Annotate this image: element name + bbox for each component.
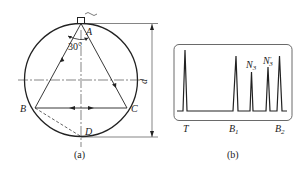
- arrow-icon: [60, 57, 65, 62]
- dimension-label: d: [138, 78, 149, 84]
- probe-icon: [78, 18, 85, 24]
- peak-n3-label: N3: [245, 59, 257, 72]
- caption-a: (a): [74, 149, 85, 161]
- beam-a-b: [35, 24, 81, 109]
- axis-label-b1: B1: [229, 123, 239, 136]
- arrow-left-icon: [69, 106, 75, 110]
- point-b-label: B: [20, 103, 26, 114]
- figure-canvas: 30° A B C D d (a) N3 N′3 T B1 B2 (b): [0, 0, 308, 176]
- axis-label-b2: B2: [275, 123, 285, 136]
- angle-label: 30°: [68, 41, 82, 52]
- peak-n3-prime-label: N′3: [262, 55, 273, 68]
- arrow-icon: [112, 83, 116, 88]
- dimension-arrow-down-icon: [150, 131, 154, 137]
- point-a-label: A: [85, 26, 93, 37]
- point-d-label: D: [84, 126, 93, 137]
- dimension-arrow-up-icon: [150, 24, 154, 30]
- figure-a: 30° A B C D d (a): [18, 13, 158, 162]
- caption-b: (b): [227, 149, 239, 161]
- probe-cable-icon: [85, 13, 97, 16]
- axis-label-t: T: [183, 123, 190, 134]
- arrow-right-icon: [88, 106, 94, 110]
- figure-b: N3 N′3 T B1 B2 (b): [174, 45, 292, 162]
- point-c-label: C: [131, 103, 138, 114]
